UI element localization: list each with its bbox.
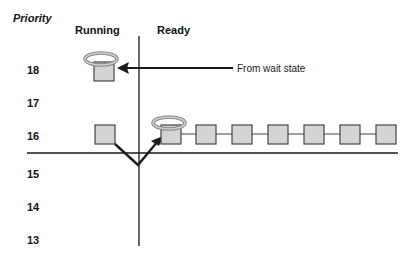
ready-queue-priority-16 [161, 125, 396, 144]
ready-thread-4 [268, 125, 288, 144]
ready-thread-5 [304, 125, 324, 144]
arrow-from-wait-state [117, 62, 233, 74]
ready-thread-7 [376, 125, 396, 144]
ready-thread-2 [196, 125, 216, 144]
scheduling-diagram [0, 0, 413, 262]
running-thread-priority-16 [95, 125, 115, 144]
ready-thread-6 [340, 125, 360, 144]
ready-thread-3 [232, 125, 252, 144]
